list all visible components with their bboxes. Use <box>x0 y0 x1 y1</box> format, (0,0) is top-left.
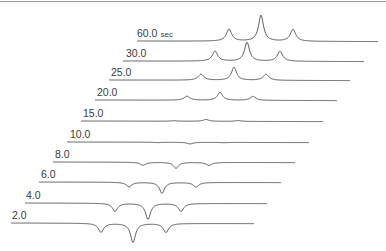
trace-label: 25.0 <box>111 66 132 78</box>
trace-label: 10.0 <box>70 128 91 140</box>
trace-label: 8.0 <box>55 148 70 160</box>
trace-6-0 <box>39 182 281 193</box>
trace-2-0 <box>11 223 254 242</box>
stacked-spectra-figure: 60.0sec30.025.020.015.010.08.06.04.02.0 <box>0 0 386 251</box>
trace-label: 2.0 <box>12 209 27 221</box>
waterfall-chart: 60.0sec30.025.020.015.010.08.06.04.02.0 <box>0 0 386 251</box>
trace-4-0 <box>25 203 267 219</box>
trace-group <box>11 15 378 242</box>
trace-25-0 <box>109 67 350 80</box>
trace-15-0 <box>81 120 323 122</box>
top-rule-divider <box>0 1 386 2</box>
trace-10-0 <box>67 142 309 144</box>
trace-label: 60.0sec <box>137 27 173 39</box>
trace-labels: 60.0sec30.025.020.015.010.08.06.04.02.0 <box>12 27 173 221</box>
trace-30-0 <box>123 42 364 61</box>
trace-label: 4.0 <box>26 189 41 201</box>
trace-label: 15.0 <box>83 107 104 119</box>
trace-label: 30.0 <box>126 47 147 59</box>
trace-label: 6.0 <box>41 168 56 180</box>
trace-20-0 <box>95 92 337 100</box>
trace-8-0 <box>53 162 295 168</box>
trace-60-0-sec <box>137 15 378 41</box>
trace-label: 20.0 <box>97 86 118 98</box>
